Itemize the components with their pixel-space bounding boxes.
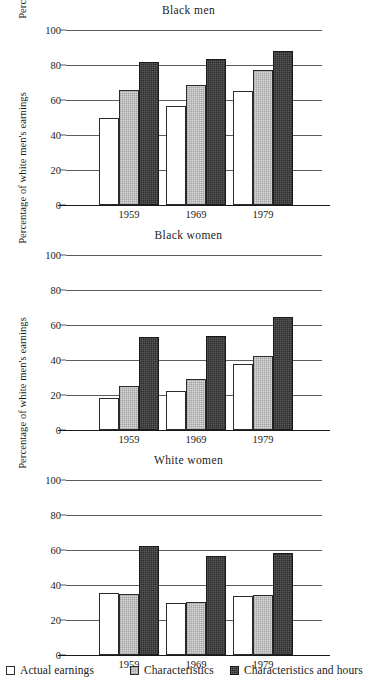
panel-title: White women (0, 454, 377, 466)
y-axis-tick-label: 20 (51, 390, 62, 401)
plot-area: 020406080100195919691979 (66, 30, 322, 205)
panel-black-men: Black men Percentage of white men's earn… (0, 0, 377, 225)
bar-1969-charhours (206, 59, 226, 205)
y-axis-tick-label: 40 (51, 580, 62, 591)
legend-swatch-icon (230, 666, 239, 675)
bar-1969-actual (166, 603, 186, 655)
bar-1979-characteristics (253, 356, 273, 430)
bar-1959-actual (99, 118, 119, 205)
bar-1979-charhours (273, 553, 293, 655)
panel-title: Black women (0, 229, 377, 241)
bar-1979-actual (233, 364, 253, 430)
bar-1969-charhours (206, 336, 226, 431)
gridline (66, 30, 322, 31)
bar-1969-actual (166, 391, 186, 430)
legend-swatch-icon (6, 666, 15, 675)
bar-1959-charhours (139, 546, 159, 655)
x-axis-line (58, 205, 330, 206)
legend-item-characteristics: Characteristics (130, 664, 214, 676)
x-axis-tick-label: 1969 (186, 434, 207, 445)
y-axis-tick-label: 100 (45, 25, 61, 36)
gridline (66, 515, 322, 516)
y-axis-label: Percentage of white men's earnings (17, 302, 33, 484)
y-axis-tick-label: 100 (45, 475, 61, 486)
panel-black-women: Black women Percentage of white men's ea… (0, 225, 377, 450)
x-axis-line (58, 655, 330, 656)
bar-1969-characteristics (186, 379, 206, 430)
panel-title: Black men (0, 4, 377, 16)
x-axis-tick-label: 1959 (119, 209, 140, 220)
bar-1979-actual (233, 91, 253, 205)
bar-1969-charhours (206, 556, 226, 655)
bar-1959-charhours (139, 62, 159, 206)
y-axis-tick-label: 80 (51, 60, 62, 71)
bar-1969-characteristics (186, 602, 206, 655)
bar-1959-characteristics (119, 386, 139, 430)
y-axis-tick-label: 80 (51, 510, 62, 521)
legend-swatch-icon (130, 666, 139, 675)
y-axis-tick-label: 40 (51, 355, 62, 366)
legend-item-characteristics-and-hours: Characteristics and hours (230, 664, 363, 676)
panel-white-women: White women Percentage of white men's ea… (0, 450, 377, 675)
plot-area: 020406080100195919691979 (66, 255, 322, 430)
legend-item-actual-earnings: Actual earnings (6, 664, 94, 676)
bar-1979-characteristics (253, 595, 273, 655)
bar-1979-charhours (273, 317, 293, 430)
x-axis-line (58, 430, 330, 431)
y-axis-tick-label: 100 (45, 250, 61, 261)
y-axis-label: Percentage of white men's earnings (17, 77, 33, 259)
plot-area: 020406080100195919691979 (66, 480, 322, 655)
bar-1959-characteristics (119, 594, 139, 655)
x-axis-tick-label: 1969 (186, 209, 207, 220)
x-axis-tick-label: 1959 (119, 434, 140, 445)
y-axis-label: Percentage of white men's earnings (17, 0, 33, 34)
y-axis-tick-label: 20 (51, 165, 62, 176)
y-axis-tick-label: 60 (51, 545, 62, 556)
chart-legend: Actual earnings Characteristics Characte… (0, 660, 377, 680)
bar-1959-characteristics (119, 90, 139, 206)
y-axis-tick-label: 20 (51, 615, 62, 626)
x-axis-tick-label: 1979 (253, 209, 274, 220)
bar-1959-charhours (139, 337, 159, 430)
legend-label: Actual earnings (20, 664, 94, 676)
gridline (66, 290, 322, 291)
gridline (66, 480, 322, 481)
y-axis-tick-label: 60 (51, 320, 62, 331)
bar-1969-actual (166, 106, 186, 205)
y-axis-tick-label: 60 (51, 95, 62, 106)
bar-1979-actual (233, 596, 253, 656)
gridline (66, 550, 322, 551)
bar-1979-characteristics (253, 70, 273, 205)
x-axis-tick-label: 1979 (253, 434, 274, 445)
gridline (66, 255, 322, 256)
legend-label: Characteristics (144, 664, 214, 676)
y-axis-tick-label: 80 (51, 285, 62, 296)
bar-1959-actual (99, 593, 119, 655)
y-axis-tick-label: 40 (51, 130, 62, 141)
legend-label: Characteristics and hours (244, 664, 363, 676)
bar-1969-characteristics (186, 85, 206, 205)
multi-panel-bar-chart: Black men Percentage of white men's earn… (0, 0, 377, 682)
bar-1959-actual (99, 398, 119, 430)
bar-1979-charhours (273, 51, 293, 205)
